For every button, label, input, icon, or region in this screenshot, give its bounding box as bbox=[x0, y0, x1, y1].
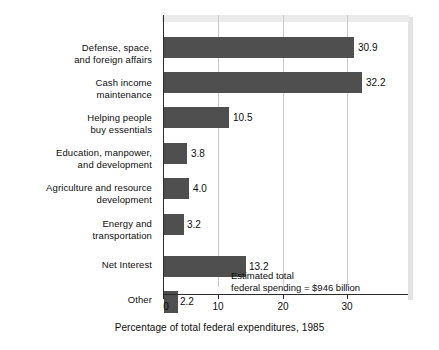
x-tick-label-30: 30 bbox=[341, 301, 352, 312]
category-label-net-interest: Net Interest bbox=[102, 259, 152, 271]
bar-value-energy: 3.2 bbox=[187, 214, 201, 235]
x-tick-20 bbox=[283, 294, 284, 299]
x-axis-line bbox=[163, 294, 408, 295]
category-label-other: Other bbox=[128, 294, 152, 306]
bar-helping-people bbox=[164, 107, 229, 128]
bar-value-education: 3.8 bbox=[191, 143, 205, 164]
x-tick-10 bbox=[218, 294, 219, 299]
x-tick-label-10: 10 bbox=[212, 301, 223, 312]
category-label-cash-income: Cash income maintenance bbox=[95, 77, 152, 100]
x-tick-30 bbox=[347, 294, 348, 299]
y-axis-line bbox=[163, 15, 164, 294]
bar-value-agriculture: 4.0 bbox=[193, 178, 207, 199]
category-label-helping-people: Helping people buy essentials bbox=[87, 112, 152, 135]
category-label-energy: Energy and transportation bbox=[93, 218, 153, 241]
category-label-education: Education, manpower, and development bbox=[56, 147, 152, 170]
bar-value-cash-income: 32.2 bbox=[366, 72, 385, 93]
bar-agriculture bbox=[164, 178, 189, 199]
estimated-total-annotation: Estimated total federal spending = $946 … bbox=[231, 270, 360, 294]
bar-cash-income bbox=[164, 72, 362, 93]
category-label-agriculture: Agriculture and resource development bbox=[46, 182, 152, 205]
bar-chart-figure: Defense, space, and foreign affairs Cash… bbox=[0, 0, 439, 350]
bar-defense bbox=[164, 37, 354, 58]
plot-drop-shadow bbox=[408, 17, 413, 300]
x-axis-title: Percentage of total federal expenditures… bbox=[0, 322, 439, 333]
bar-value-defense: 30.9 bbox=[358, 37, 377, 58]
category-label-column: Defense, space, and foreign affairs Cash… bbox=[0, 22, 158, 294]
category-label-defense: Defense, space, and foreign affairs bbox=[74, 42, 152, 65]
x-tick-0 bbox=[163, 294, 164, 299]
x-tick-label-0: 0 bbox=[163, 301, 169, 312]
x-tick-label-20: 20 bbox=[277, 301, 288, 312]
bar-education bbox=[164, 143, 187, 164]
bar-value-helping-people: 10.5 bbox=[233, 107, 252, 128]
plot-area: 30.9 32.2 10.5 3.8 4.0 3.2 13.2 2.2 Esti… bbox=[163, 22, 408, 294]
plot-top-band bbox=[162, 15, 409, 22]
bar-energy bbox=[164, 214, 184, 235]
